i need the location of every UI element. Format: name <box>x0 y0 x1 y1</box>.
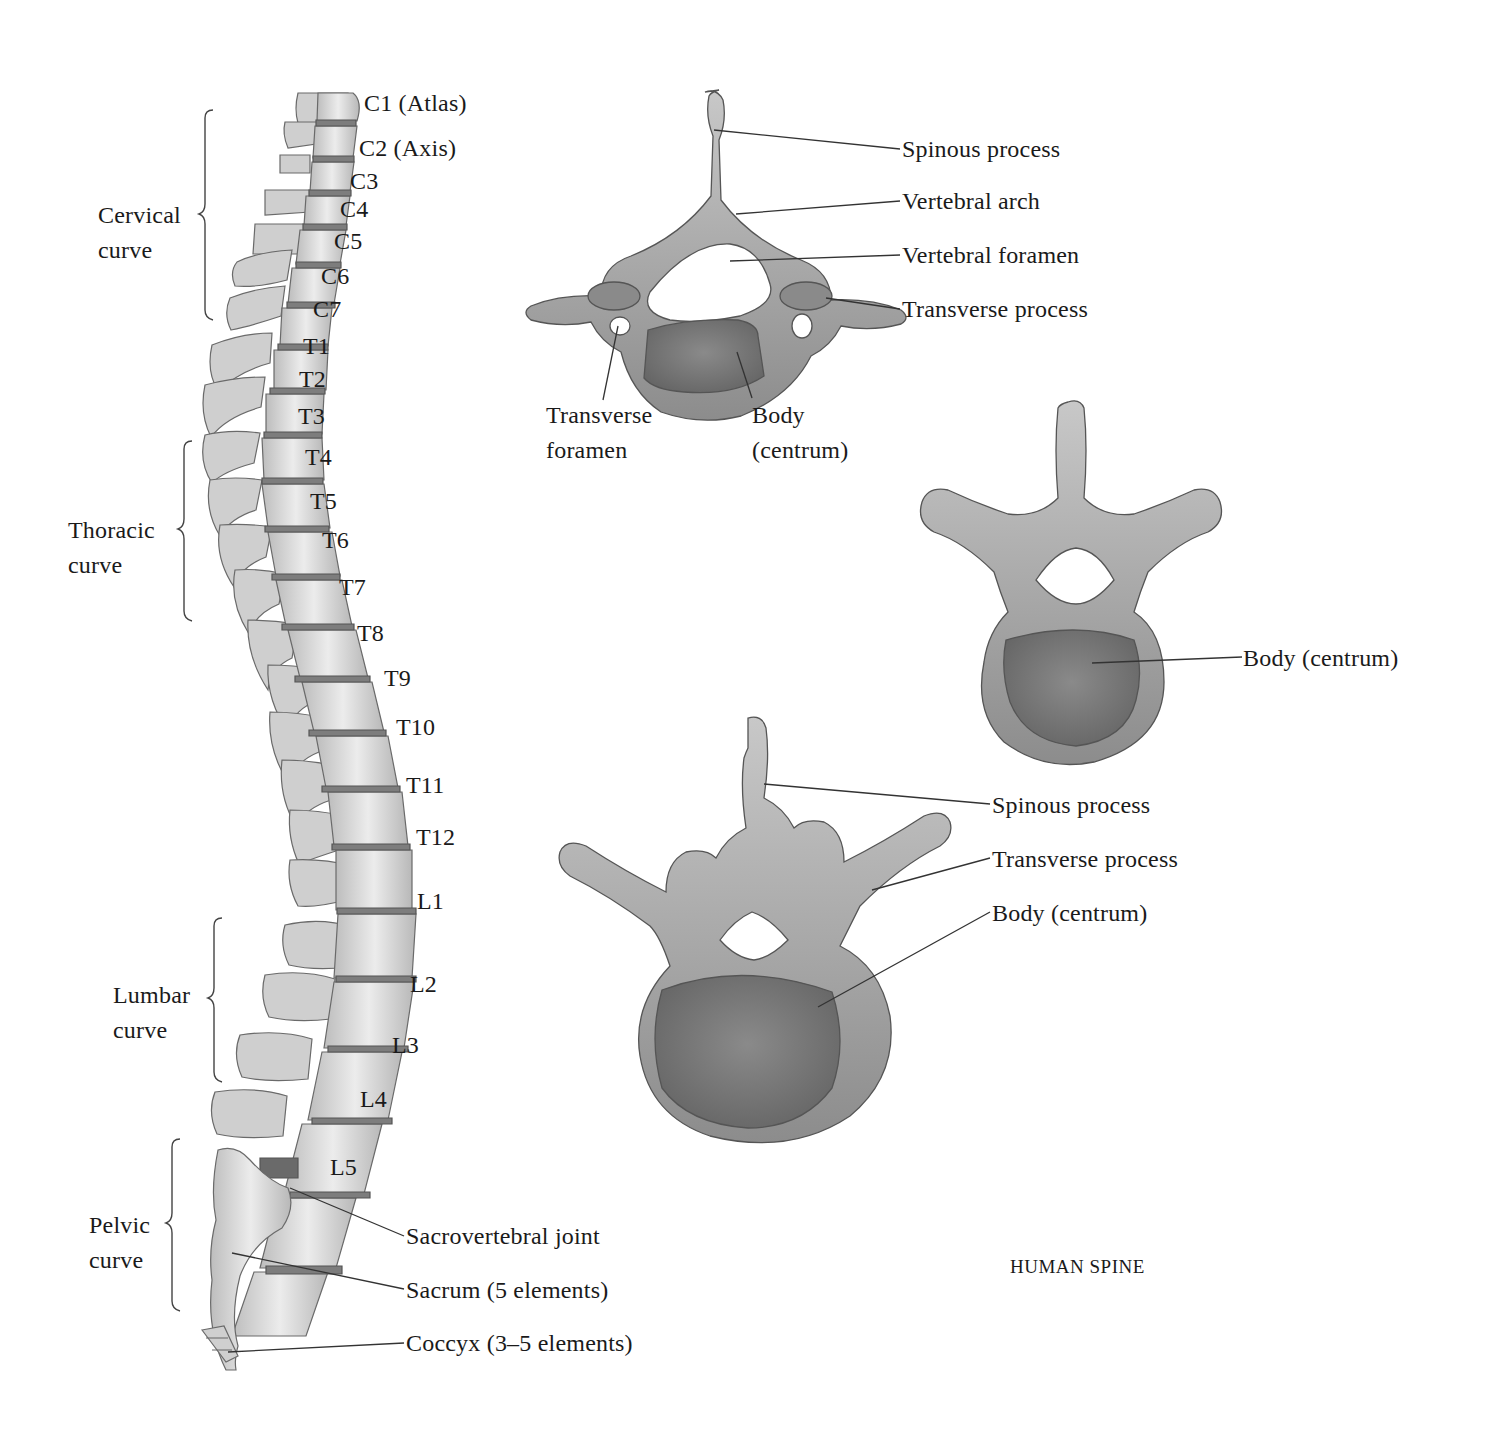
label-line2: foramen <box>546 433 652 468</box>
curve-label-thoracic: Thoracic curve <box>68 513 155 583</box>
curve-label-line2: curve <box>68 548 155 583</box>
vertebra-label-t11: T11 <box>406 771 444 799</box>
vertebra-label-t2: T2 <box>299 365 326 393</box>
human-spine-diagram: Cervical curve Thoracic curve Lumbar cur… <box>0 0 1493 1440</box>
label-sacrovertebral-joint: Sacrovertebral joint <box>406 1222 600 1250</box>
cervical-label-vertebral-arch: Vertebral arch <box>902 187 1040 215</box>
cervical-label-transverse-process: Transverse process <box>902 295 1088 323</box>
cervical-label-body: Body (centrum) <box>752 398 848 468</box>
curve-label-line1: Cervical <box>98 198 181 233</box>
vertebra-label-t8: T8 <box>357 619 384 647</box>
vertebra-label-c6: C6 <box>321 262 349 290</box>
vertebra-label-l2: L2 <box>410 970 437 998</box>
lumbar-label-body: Body (centrum) <box>992 899 1147 927</box>
vertebra-label-t1: T1 <box>303 332 330 360</box>
diagram-graphics <box>0 0 1493 1440</box>
cervical-label-transverse-foramen: Transverse foramen <box>546 398 652 468</box>
vertebra-label-t3: T3 <box>298 402 325 430</box>
vertebra-label-t7: T7 <box>339 573 366 601</box>
vertebra-label-t9: T9 <box>384 664 411 692</box>
vertebra-label-c7: C7 <box>313 295 341 323</box>
vertebra-label-c4: C4 <box>340 195 368 223</box>
cervical-vertebra-illustration <box>526 90 906 420</box>
curve-label-line1: Thoracic <box>68 513 155 548</box>
cervical-label-spinous-process: Spinous process <box>902 135 1060 163</box>
curve-label-pelvic: Pelvic curve <box>89 1208 150 1278</box>
label-coccyx: Coccyx (3–5 elements) <box>406 1329 633 1357</box>
vertebra-label-t6: T6 <box>322 526 349 554</box>
curve-label-line1: Pelvic <box>89 1208 150 1243</box>
vertebra-label-t5: T5 <box>310 487 337 515</box>
lumbar-label-transverse-process: Transverse process <box>992 845 1178 873</box>
vertebra-label-l5: L5 <box>330 1153 357 1181</box>
vertebra-label-t10: T10 <box>396 713 435 741</box>
vertebra-label-c1: C1 (Atlas) <box>364 89 467 117</box>
vertebra-label-l4: L4 <box>360 1085 387 1113</box>
thoracic-vertebra-illustration <box>921 401 1222 765</box>
curve-label-line2: curve <box>113 1013 190 1048</box>
vertebra-label-l1: L1 <box>417 887 444 915</box>
vertebra-label-c5: C5 <box>334 227 362 255</box>
thoracic-label-body: Body (centrum) <box>1243 644 1398 672</box>
vertebra-label-c2: C2 (Axis) <box>359 134 456 162</box>
label-sacrum: Sacrum (5 elements) <box>406 1276 608 1304</box>
curve-braces <box>166 110 222 1311</box>
vertebra-label-t12: T12 <box>416 823 455 851</box>
curve-label-lumbar: Lumbar curve <box>113 978 190 1048</box>
vertebra-label-c3: C3 <box>350 167 378 195</box>
lateral-spine <box>202 93 416 1370</box>
curve-label-line2: curve <box>89 1243 150 1278</box>
vertebra-label-t4: T4 <box>305 443 332 471</box>
lumbar-vertebra-illustration <box>559 717 951 1143</box>
curve-label-line1: Lumbar <box>113 978 190 1013</box>
diagram-title: HUMAN SPINE <box>1010 1256 1145 1278</box>
lumbar-label-spinous-process: Spinous process <box>992 791 1150 819</box>
label-line1: Body <box>752 398 848 433</box>
vertebra-label-l3: L3 <box>392 1031 419 1059</box>
label-line2: (centrum) <box>752 433 848 468</box>
curve-label-line2: curve <box>98 233 181 268</box>
label-line1: Transverse <box>546 398 652 433</box>
cervical-label-vertebral-foramen: Vertebral foramen <box>902 241 1079 269</box>
curve-label-cervical: Cervical curve <box>98 198 181 268</box>
